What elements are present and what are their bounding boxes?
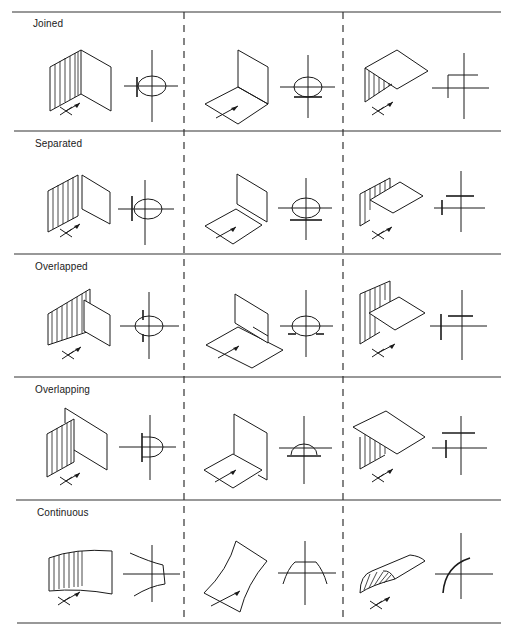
separated-col2-symbol [278, 178, 332, 240]
overlapping-col2-shape [204, 414, 267, 488]
joined-col3-symbol [432, 53, 489, 119]
separated-col3-symbol [434, 171, 485, 232]
joined-col1-shape [50, 50, 111, 115]
continuous-col1-shape [49, 550, 112, 605]
overlapping-col1-shape [47, 408, 107, 485]
continuous-col1-symbol [123, 545, 180, 602]
joined-col2-symbol [280, 55, 335, 118]
overlapped-col1-symbol [120, 292, 179, 359]
surface-junction-diagram: Joined Separated Overlapped Overlapping … [0, 0, 513, 634]
overlapping-col2-symbol [279, 416, 332, 484]
joined-col2-shape [205, 50, 268, 124]
overlapping-col3-shape [353, 411, 425, 482]
separated-col1-symbol [118, 180, 174, 245]
continuous-col3-symbol [435, 533, 493, 599]
continuous-col3-shape [360, 555, 425, 609]
overlapped-col1-shape [48, 289, 110, 359]
overlapped-col3-shape [360, 281, 425, 357]
overlapped-col2-shape [206, 294, 283, 368]
overlapping-col3-symbol [432, 416, 487, 475]
separated-col3-shape [360, 178, 423, 239]
joined-col1-symbol [124, 50, 178, 122]
separated-col1-shape [48, 175, 110, 237]
overlapped-col3-symbol [430, 290, 487, 360]
overlapping-col1-symbol [119, 415, 176, 480]
continuous-col2-symbol [278, 541, 336, 605]
continuous-col2-shape [204, 541, 267, 612]
overlapped-col2-symbol [280, 290, 333, 357]
separated-col2-shape [205, 174, 267, 244]
diagram-canvas [0, 0, 513, 634]
joined-col3-shape [365, 50, 428, 115]
